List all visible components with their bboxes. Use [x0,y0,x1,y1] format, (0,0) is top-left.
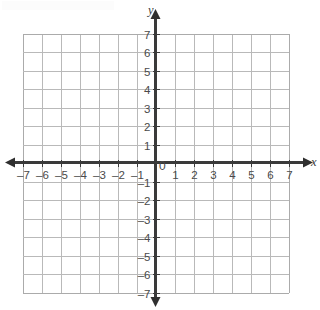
y-axis-label: y [146,3,154,17]
x-tick-label: –2 [112,169,125,181]
x-tick-label: 6 [267,169,273,181]
x-tick-label: 4 [229,169,236,181]
y-tick-label: 3 [144,103,150,115]
y-tick-label: –7 [138,288,151,300]
x-tick-label: 2 [191,169,197,181]
x-tick-label: –4 [74,169,87,181]
y-axis-down-arrowhead [151,297,161,307]
x-tick-label: 3 [210,169,216,181]
y-tick-label: 5 [144,66,150,78]
x-axis-label: x [310,155,317,169]
x-tick-label: –5 [55,169,68,181]
y-tick-label: –5 [138,251,151,263]
x-tick-label: –6 [36,169,49,181]
y-tick-label: –1 [138,177,151,189]
y-tick-label: 7 [144,29,150,41]
y-tick-label: 2 [144,121,150,133]
scan-artifact [2,1,114,10]
axis-lines [5,9,313,307]
origin-label: 0 [159,159,166,173]
y-tick-label: 1 [144,140,150,152]
y-tick-label: –3 [138,214,151,226]
y-tick-label: 4 [144,84,151,96]
coordinate-plane: –7–6–5–4–3–2–11234567 –7–6–5–4–3–2–11234… [0,0,320,310]
x-axis-left-arrowhead [5,158,15,168]
x-tick-label: –7 [17,169,30,181]
y-tick-label: 6 [144,47,150,59]
x-tick-label: 5 [248,169,254,181]
y-tick-label: –6 [138,269,151,281]
x-tick-label: 1 [172,169,178,181]
x-tick-label: –3 [93,169,106,181]
y-tick-label: –2 [138,195,151,207]
x-tick-label: 7 [286,169,292,181]
y-tick-label: –4 [138,232,151,244]
coordinate-grid-svg: –7–6–5–4–3–2–11234567 –7–6–5–4–3–2–11234… [0,0,320,310]
